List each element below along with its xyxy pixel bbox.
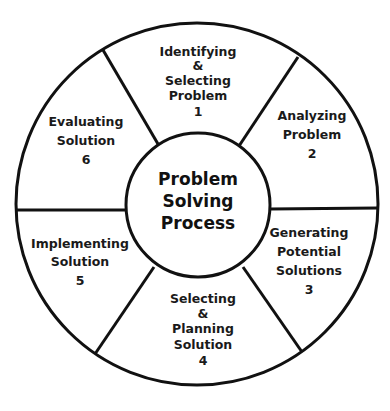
segment-6-step-number: 6	[82, 152, 91, 167]
divider-right	[270, 208, 378, 209]
segment-6-line-1: Evaluating	[49, 114, 124, 129]
segment-1-line-2: &	[193, 58, 204, 73]
segment-3-line-1: Generating	[270, 225, 349, 240]
segment-3-line-3: Solutions	[276, 263, 342, 278]
segment-2-analyzing-problem: Analyzing Problem 2	[278, 108, 347, 161]
center-line-3: Process	[161, 213, 235, 233]
segment-1-step-number: 1	[194, 104, 203, 119]
segment-3-generating-potential-solutions: Generating Potential Solutions 3	[270, 225, 349, 297]
center-label: Problem Solving Process	[158, 169, 238, 233]
divider-bottom-right	[243, 267, 302, 352]
segment-4-line-4: Solution	[174, 337, 233, 352]
divider-bottom-left	[95, 267, 154, 354]
segment-5-implementing-solution: Implementing Solution 5	[31, 236, 129, 288]
segment-3-step-number: 3	[305, 282, 314, 297]
segment-2-line-1: Analyzing	[278, 108, 347, 123]
segment-6-line-2: Solution	[57, 133, 116, 148]
segment-5-step-number: 5	[76, 273, 85, 288]
segment-3-line-2: Potential	[277, 244, 341, 259]
segment-2-line-2: Problem	[283, 127, 342, 142]
problem-solving-wheel: Problem Solving Process Identifying & Se…	[0, 0, 390, 411]
segment-4-line-1: Selecting	[170, 291, 236, 306]
segment-6-evaluating-solution: Evaluating Solution 6	[49, 114, 124, 167]
segment-5-line-2: Solution	[51, 254, 110, 269]
segment-2-step-number: 2	[308, 146, 317, 161]
divider-top-left	[103, 50, 158, 144]
center-line-1: Problem	[158, 169, 238, 189]
segment-5-line-1: Implementing	[31, 236, 129, 251]
segment-1-line-3: Selecting	[165, 73, 231, 88]
segment-4-step-number: 4	[199, 353, 208, 368]
segment-4-selecting-planning-solution: Selecting & Planning Solution 4	[170, 291, 236, 368]
segment-1-line-1: Identifying	[160, 44, 237, 59]
segment-1-identifying-selecting-problem: Identifying & Selecting Problem 1	[160, 44, 237, 119]
center-line-2: Solving	[163, 191, 234, 211]
segment-1-line-4: Problem	[169, 88, 228, 103]
segment-4-line-2: &	[198, 306, 209, 321]
segment-4-line-3: Planning	[172, 321, 234, 336]
